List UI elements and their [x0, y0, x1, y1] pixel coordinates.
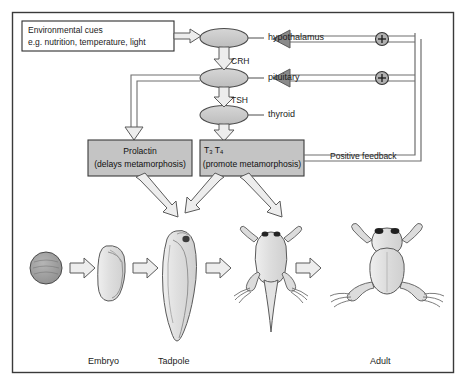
hypothalamus-gland — [200, 29, 248, 48]
plus-sign-pituitary — [376, 72, 389, 85]
pituitary-label: pituitary — [268, 72, 300, 83]
positive-feedback-label: Positive feedback — [330, 151, 397, 161]
thyroid-hormone-box-line2: (promote metamorphosis) — [200, 159, 304, 170]
thyroid-hormone-box-line1: T3 T4 — [204, 145, 308, 157]
thyroid-gland — [200, 106, 248, 125]
crh-label: CRH — [231, 56, 249, 66]
stage-label-embryo: Embryo — [88, 356, 119, 367]
stage-label-tadpole: Tadpole — [158, 356, 190, 367]
diagram-canvas: Environmental cues e.g. nutrition, tempe… — [0, 0, 466, 390]
pituitary-gland — [200, 69, 248, 88]
prolactin-box-line2: (delays metamorphosis) — [88, 159, 192, 170]
stage-egg — [30, 252, 62, 284]
hypothalamus-label: hypothalamus — [268, 32, 324, 43]
tsh-label: TSH — [231, 95, 248, 105]
environmental-cues-line1: Environmental cues — [28, 25, 103, 35]
plus-sign-hypothalamus — [376, 33, 389, 46]
environmental-cues-line2: e.g. nutrition, temperature, light — [28, 37, 146, 47]
thyroid-label: thyroid — [268, 109, 295, 120]
stage-label-adult: Adult — [370, 356, 391, 367]
outer-frame — [13, 13, 454, 373]
prolactin-box-line1: Prolactin — [88, 146, 192, 157]
